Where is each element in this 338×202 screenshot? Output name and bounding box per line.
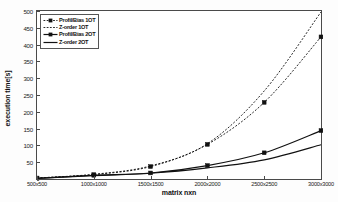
x-tick-label: 1500x1500 [138,181,164,187]
x-tick-mark [151,176,152,179]
series-line [37,145,321,179]
series-1 [37,35,323,180]
x-tick-label: 2500x2500 [251,181,277,187]
legend-entry: Profil/Bias 1OT [43,17,95,24]
chart-figure: 50100150200250300350400450500 execution … [0,0,338,202]
x-tick-label: 500x500 [27,181,47,187]
legend-marker [49,19,53,23]
x-tick-mark [264,176,265,179]
y-axis-title: execution time[s] [4,39,11,159]
x-tick-mark [94,176,95,179]
y-tick-label: 500 [0,8,33,15]
legend-marker [49,33,53,37]
legend-entry: Profil/Bias 2OT [43,31,95,38]
y-tick-mark [37,78,40,79]
x-axis-title: matrix nxn [36,189,322,196]
x-tick-mark [321,176,322,179]
legend-label: Z-order 1OT [59,24,88,31]
legend-label: Z-order 2OT [59,39,88,46]
series-4 [37,145,321,179]
y-tick-mark [37,145,40,146]
x-tick-mark [37,176,38,179]
legend-line-sample [43,17,58,24]
y-tick-mark [37,11,40,12]
x-tick-mark [207,176,208,179]
y-tick-label: 50 [0,159,33,166]
y-tick-mark [37,179,40,180]
data-point-marker [262,100,266,104]
x-tick-label: 2000x2000 [194,181,220,187]
legend-line-sample [43,39,58,46]
legend-line-sample [43,24,58,31]
data-point-marker [319,35,323,39]
legend-entry: Z-order 1OT [43,24,95,31]
chart-legend: Profil/Bias 1OTZ-order 1OTProfil/Bias 2O… [40,14,99,49]
data-point-marker [206,164,210,168]
data-point-marker [262,151,266,155]
y-tick-mark [37,61,40,62]
data-point-marker [319,129,323,133]
y-tick-mark [37,162,40,163]
y-tick-mark [37,112,40,113]
y-tick-mark [37,95,40,96]
legend-entry: Z-order 2OT [43,39,95,46]
legend-label: Profil/Bias 1OT [59,17,95,24]
y-tick-mark [37,129,40,130]
x-tick-label: 3000x3000 [308,181,334,187]
legend-label: Profil/Bias 2OT [59,31,95,38]
y-tick-label: 450 [0,24,33,31]
x-tick-label: 1000x1000 [81,181,107,187]
series-3 [37,129,323,181]
legend-line-sample [43,31,58,38]
